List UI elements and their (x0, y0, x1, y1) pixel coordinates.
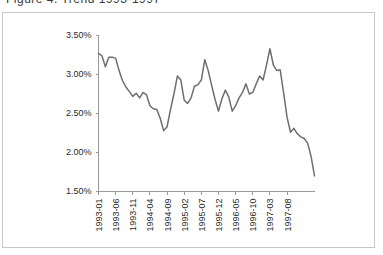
x-tick-label: 1995-02 (180, 199, 190, 232)
x-tick-label: 1996-05 (231, 199, 241, 232)
x-tick-label: 1996-10 (248, 199, 258, 232)
line-chart-plot: 3.50%3.00%2.50%2.00%1.50% 1993-011993-06… (3, 13, 374, 247)
chart-frame: 3.50%3.00%2.50%2.00%1.50% 1993-011993-06… (2, 12, 375, 248)
y-tick-label: 2.00% (66, 147, 92, 157)
x-tick-label: 1995-12 (214, 199, 224, 232)
clipped-title-strip: Figure 4. Trend 1993-1997 (0, 0, 383, 11)
y-axis-tick-labels: 3.50%3.00%2.50%2.00%1.50% (66, 30, 92, 196)
y-tick-label: 3.00% (66, 69, 92, 79)
x-tick-label: 1995-07 (197, 199, 207, 232)
y-tick-label: 2.50% (66, 108, 92, 118)
x-tick-label: 1993-06 (111, 199, 121, 232)
x-tick-label: 1994-09 (163, 199, 173, 232)
x-tick-label: 1997-08 (283, 199, 293, 232)
x-tick-label: 1993-11 (128, 199, 138, 231)
x-axis-tick-labels: 1993-011993-061993-111994-041994-091995-… (94, 199, 293, 232)
data-series-line (99, 49, 315, 176)
y-tick-label: 1.50% (66, 186, 92, 196)
x-tick-label: 1994-04 (145, 199, 155, 232)
page-title: Figure 4. Trend 1993-1997 (6, 0, 161, 6)
y-tick-label: 3.50% (66, 30, 92, 40)
x-tick-label: 1993-01 (94, 199, 104, 232)
x-tick-label: 1997-03 (265, 199, 275, 232)
